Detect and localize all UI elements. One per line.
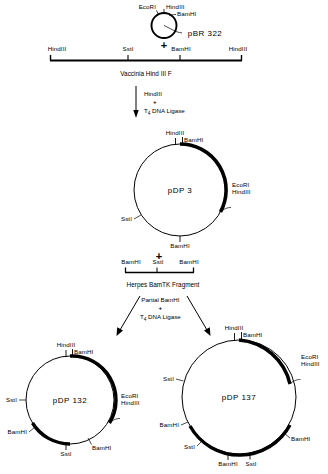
step1-line-hindiii: HindIII	[144, 90, 185, 98]
pdp3-label-bamhi-top: BamHI	[184, 137, 203, 143]
pdp3-label-ssti: SstI	[121, 216, 132, 222]
pdp137-label-bamhi-top: BamHI	[243, 332, 262, 338]
vaccinia-label-bamhi: BamHI	[171, 46, 190, 52]
step2-t4-rest: DNA Ligase	[146, 313, 180, 320]
pdp137-tk-arc	[190, 425, 290, 455]
pbr322-label-ecori: EcoRI	[139, 4, 156, 10]
pdp132-label-hindiii-top: HindIII	[57, 342, 76, 348]
pbr322-label-bamhi: BamHI	[177, 11, 196, 17]
step1-reagents: HindIII + T4 DNA Ligase	[144, 90, 185, 117]
pdp132-label-hindiii-right: HindIII	[121, 400, 140, 406]
pdp137-vaccinia-arc	[239, 340, 290, 384]
step1-arrow-head	[133, 110, 138, 118]
pdp132-label-bamhi-bottom: BamHI	[92, 445, 111, 451]
pdp137-tick-ssti-left	[176, 379, 184, 381]
step2-arrow-right-shaft	[187, 296, 207, 330]
pdp137-label-bamhi-bottom: BamHI	[218, 461, 237, 467]
pdp3-tick-ssti	[134, 215, 141, 219]
pdp3-label-hindiii-right: HindIII	[232, 189, 251, 195]
vaccinia-label-ssti: SstI	[122, 46, 133, 52]
figure-canvas: EcoRI HindIII BamHI pBR 322 + HindIII Ss…	[0, 0, 328, 474]
pdp137-label-hindiii-top: HindIII	[225, 325, 244, 331]
pdp132-label-ssti-bottom: SstI	[60, 451, 71, 457]
step2-line-ligase: T4 DNA Ligase	[140, 313, 181, 323]
pbr322-name: pBR 322	[188, 29, 223, 38]
plus-symbol-1: +	[161, 39, 167, 51]
step2-line-plus: +	[140, 304, 181, 312]
pdp3-label-bamhi-bottom: BamHI	[170, 243, 189, 249]
vaccinia-caption: Vaccinia Hind III F	[120, 70, 171, 77]
pdp137-label-hindiii-right: HindIII	[301, 361, 320, 367]
herpes-label-bamhi-right: BamHI	[179, 259, 198, 265]
step2-arrow-right-head	[204, 327, 211, 336]
pbr322-leader-name	[164, 26, 182, 33]
herpes-caption: Herpes BamTK Fragment	[127, 281, 200, 288]
step1-line-plus: +	[144, 98, 185, 106]
pdp3-name: pDP 3	[168, 186, 193, 195]
pdp137-leader-ecori-hindiii	[290, 380, 301, 384]
pdp137-name: pDP 137	[222, 393, 257, 402]
pdp137-label-ssti-left: SstI	[163, 376, 174, 382]
step2-line-partial-bamhi: Partial BamHI	[140, 296, 181, 304]
step1-line-ligase: T4 DNA Ligase	[144, 107, 185, 117]
step2-arrow-left-shaft	[120, 296, 140, 330]
step2-arrow-left-head	[117, 327, 124, 336]
pdp3-label-hindiii-top: HindIII	[166, 130, 185, 136]
vaccinia-label-hindiii-left: HindIII	[48, 46, 67, 52]
pdp132-label-bamhi-top: BamHI	[74, 349, 93, 355]
pdp132-vaccinia-arc	[70, 356, 116, 423]
pdp132-name: pDP 132	[53, 396, 88, 405]
pdp132-label-bamhi-left: BamHI	[8, 429, 27, 435]
pdp3-insert-arc	[180, 144, 226, 212]
pdp132-tk-arc	[33, 423, 71, 444]
herpes-label-ssti: SstI	[152, 259, 163, 265]
step2-reagents: Partial BamHI + T4 DNA Ligase	[140, 296, 181, 323]
pdp132-tick-bamhi-left	[29, 427, 35, 432]
pdp137-label-bamhi-right: BamHI	[291, 436, 310, 442]
pdp137-label-ssti-lowleft: SstI	[184, 444, 195, 450]
pdp137-label-bamhi-left: BamHI	[160, 422, 179, 428]
step1-t4-rest: DNA Ligase	[150, 107, 184, 114]
herpes-label-bamhi-left: BamHI	[121, 259, 140, 265]
pdp132-label-ssti-left: SstI	[6, 397, 17, 403]
vaccinia-label-hindiii-right: HindIII	[229, 46, 248, 52]
pdp137-tick-bamhi-left	[181, 422, 188, 425]
pdp137-label-ssti-bottom: SstI	[245, 461, 256, 467]
